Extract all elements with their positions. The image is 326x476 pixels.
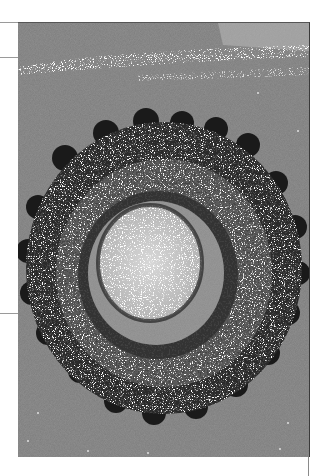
- rule-right-vertical: [308, 456, 309, 476]
- rule-top-left: [0, 22, 19, 23]
- micrograph-figure: [18, 22, 310, 457]
- rule-low-left: [0, 313, 19, 314]
- rule-mid-left: [0, 57, 19, 58]
- virus-micrograph-image: [18, 23, 309, 457]
